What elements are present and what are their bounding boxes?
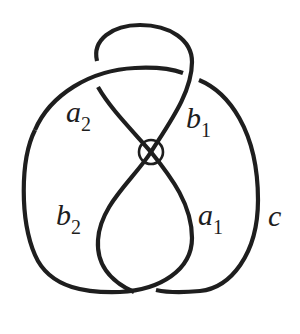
- arc-top-loop: [96, 25, 192, 292]
- arc-c-right: [156, 80, 258, 292]
- label-b1: b1: [186, 101, 211, 141]
- label-c: c: [268, 199, 281, 232]
- arc-c-upper: [35, 68, 183, 130]
- label-b2: b2: [56, 198, 81, 238]
- knot-diagram: a2 b1 b2 a1 c: [0, 0, 300, 334]
- arc-a2-to-a1: [24, 87, 192, 292]
- label-a1: a1: [198, 198, 223, 238]
- label-a2: a2: [66, 95, 91, 135]
